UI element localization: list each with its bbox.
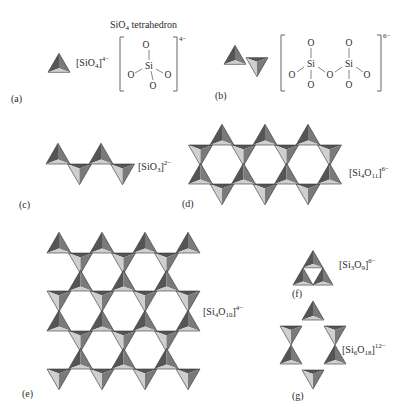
svg-text:4−: 4− (179, 35, 187, 43)
panel-a-label: (a) (11, 93, 22, 105)
tetrahedron-icon (111, 164, 135, 185)
tetrahedron-icon (90, 291, 114, 312)
tetrahedron-icon (302, 301, 324, 320)
panel-d-label: (d) (182, 198, 194, 210)
panel-a-tetrahedron (48, 53, 70, 72)
panel-e-formula: [Si4O10]4− (203, 304, 243, 319)
tetrahedron-icon (280, 326, 302, 345)
panel-c-label: (c) (19, 199, 30, 211)
tetrahedron-icon (275, 163, 299, 184)
tetrahedron-icon (176, 369, 200, 390)
panel-f-formula: [Si3O9]6− (339, 257, 376, 272)
tetrahedron-icon (176, 291, 200, 312)
tetrahedron-icon (176, 310, 200, 331)
panel-f-ring-3 (293, 250, 333, 285)
tetrahedron-icon (253, 124, 277, 145)
svg-text:O: O (346, 38, 353, 48)
tetrahedron-icon (224, 45, 246, 64)
svg-text:O: O (346, 80, 353, 90)
tetrahedron-icon (47, 310, 71, 331)
panel-e-label: (e) (22, 388, 33, 400)
tetrahedron-icon (280, 345, 302, 364)
svg-text:O: O (165, 70, 172, 80)
svg-text:Si: Si (145, 61, 153, 71)
tetrahedron-icon (176, 232, 200, 253)
panel-b-label: (b) (215, 90, 227, 102)
tetrahedron-icon (303, 250, 323, 267)
panel-g-formula: [Si6O18]12− (342, 342, 386, 357)
tetrahedron-icon (133, 232, 157, 253)
tetrahedron-icon (313, 268, 333, 285)
tetrahedron-icon (47, 291, 71, 312)
svg-text:O: O (128, 70, 135, 80)
tetrahedron-icon (47, 232, 71, 253)
svg-text:O: O (364, 70, 371, 80)
svg-text:O: O (308, 38, 315, 48)
tetrahedron-icon (47, 369, 71, 390)
tetrahedron-icon (48, 53, 70, 72)
tetrahedron-icon (210, 124, 234, 145)
tetrahedron-icon (324, 326, 346, 345)
tetrahedron-icon (246, 58, 268, 77)
panel-f-label: (f) (292, 288, 302, 300)
tetrahedron-icon (112, 348, 136, 369)
tetrahedron-icon (302, 370, 324, 389)
tetrahedron-icon (133, 310, 157, 331)
tetrahedron-icon (155, 348, 179, 369)
panel-d-double-chain (189, 124, 342, 205)
silicate-diagram: (a) [SiO4]4− SiO4 tetrahedron 4− O Si O … (0, 0, 410, 419)
tetrahedron-icon (89, 143, 113, 164)
tetrahedron-icon (90, 310, 114, 331)
panel-g-ring-6 (280, 301, 346, 389)
panel-a-formula: [SiO4]4− (76, 55, 109, 70)
panel-b-tetrahedra (224, 45, 268, 76)
tetrahedron-icon (90, 232, 114, 253)
tetrahedron-icon (189, 163, 213, 184)
panel-b-structural-formula: 6− O Si O O O O Si O O (281, 32, 391, 91)
svg-text:O: O (327, 70, 334, 80)
panel-d-formula: [Si4O11]6− (349, 165, 389, 180)
tetrahedron-icon (296, 184, 320, 205)
tetrahedron-icon (133, 291, 157, 312)
tetrahedron-icon (46, 143, 70, 164)
tetrahedron-icon (296, 124, 320, 145)
tetrahedron-icon (293, 268, 313, 285)
svg-text:O: O (143, 40, 150, 50)
svg-text:O: O (289, 70, 296, 80)
svg-text:O: O (308, 80, 315, 90)
tetrahedron-icon (69, 348, 93, 369)
tetrahedron-icon (232, 163, 256, 184)
tetrahedron-icon (133, 369, 157, 390)
tetrahedron-icon (155, 270, 179, 291)
panel-c-single-chain (46, 143, 135, 185)
svg-text:O: O (150, 81, 157, 91)
panel-c-formula: [SiO3]2− (138, 159, 171, 174)
svg-text:Si: Si (345, 59, 353, 69)
panel-g-label: (g) (292, 390, 304, 402)
panel-a-heading: SiO4 tetrahedron (110, 19, 177, 32)
tetrahedron-icon (69, 270, 93, 291)
tetrahedron-icon (210, 184, 234, 205)
panel-a-structural-formula: 4− O Si O O O (120, 35, 187, 91)
tetrahedron-icon (112, 270, 136, 291)
panel-e-sheet (47, 232, 200, 390)
tetrahedron-icon (90, 369, 114, 390)
svg-text:6−: 6− (383, 32, 391, 40)
tetrahedron-icon (253, 184, 277, 205)
tetrahedron-icon (68, 164, 92, 185)
svg-text:Si: Si (307, 59, 315, 69)
tetrahedron-icon (318, 163, 342, 184)
